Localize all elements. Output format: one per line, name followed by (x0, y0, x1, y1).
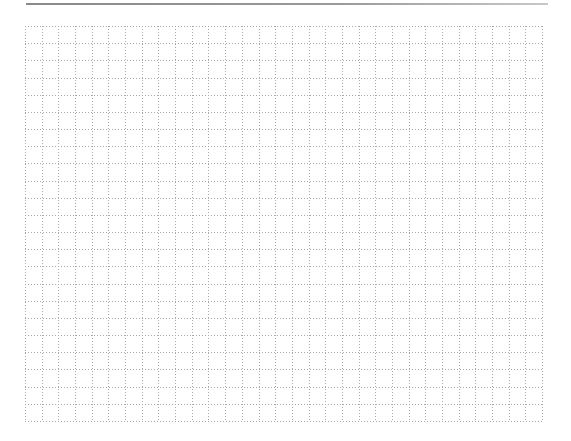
grid-lines (25, 26, 545, 423)
dotted-grid (25, 26, 545, 423)
header-rule (26, 3, 548, 5)
graph-paper-page (0, 0, 571, 441)
